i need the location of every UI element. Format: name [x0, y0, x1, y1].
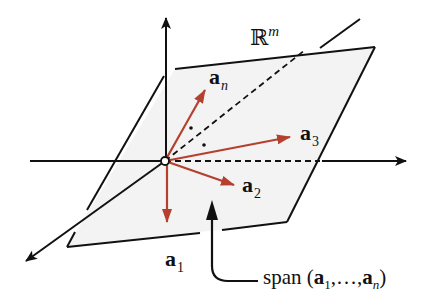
space-label: ℝm — [250, 23, 279, 50]
label-a1: a1 — [165, 246, 184, 275]
span-diagram: ℝm an a3 a2 a1 span (a1,…,an) — [0, 0, 447, 308]
plane-rm — [67, 47, 375, 247]
ellipsis-dot — [202, 143, 206, 147]
span-label: span (a1,…,an) — [263, 265, 386, 292]
origin-point — [161, 157, 169, 165]
plane-extension-line — [320, 19, 360, 48]
ellipsis-dot — [189, 126, 193, 130]
